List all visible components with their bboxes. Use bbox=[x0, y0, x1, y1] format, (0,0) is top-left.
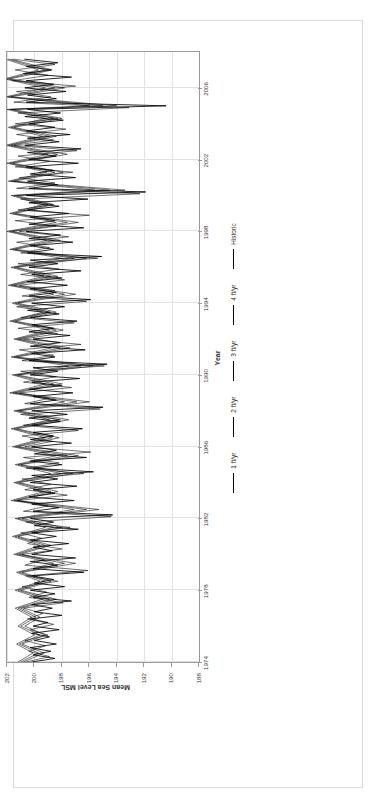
legend-swatch-icon bbox=[233, 249, 234, 269]
y-tick-label: 192 bbox=[140, 673, 147, 713]
plot-area bbox=[6, 51, 200, 663]
legend-item[interactable]: 2 ft/yr bbox=[230, 397, 237, 437]
legend-item[interactable]: 1 ft/yr bbox=[230, 453, 237, 493]
x-tick-label: 2006 bbox=[202, 69, 209, 109]
y-tick-mark bbox=[6, 663, 7, 667]
x-tick-mark bbox=[198, 447, 202, 448]
y-tick-label: 198 bbox=[57, 673, 64, 713]
y-tick-mark bbox=[88, 663, 89, 667]
x-tick-label: 1986 bbox=[202, 428, 209, 468]
series-line-historic bbox=[23, 59, 166, 662]
legend-label: 1 ft/yr bbox=[230, 453, 237, 469]
x-tick-mark bbox=[198, 375, 202, 376]
y-tick-mark bbox=[143, 663, 144, 667]
y-tick-label: 202 bbox=[3, 673, 10, 713]
x-tick-label: 1994 bbox=[202, 284, 209, 324]
y-tick-mark bbox=[116, 663, 117, 667]
x-tick-label: 1978 bbox=[202, 571, 209, 611]
x-tick-label: 2002 bbox=[202, 141, 209, 181]
legend-swatch-icon bbox=[233, 361, 234, 381]
x-tick-label: 1974 bbox=[202, 643, 209, 683]
horizontal-gridline bbox=[199, 52, 200, 662]
x-tick-mark bbox=[198, 303, 202, 304]
x-tick-mark bbox=[198, 518, 202, 519]
legend-label: 4 ft/yr bbox=[230, 285, 237, 301]
x-axis-title: Year bbox=[214, 53, 221, 663]
x-tick-mark bbox=[198, 590, 202, 591]
y-tick-label: 196 bbox=[85, 673, 92, 713]
chart-legend: 1 ft/yr2 ft/yr3 ft/yr4 ft/yrHistoric bbox=[230, 53, 237, 663]
y-tick-mark bbox=[33, 663, 34, 667]
legend-swatch-icon bbox=[233, 417, 234, 437]
legend-swatch-icon bbox=[233, 473, 234, 493]
x-tick-mark bbox=[198, 662, 202, 663]
x-tick-label: 1990 bbox=[202, 356, 209, 396]
x-tick-mark bbox=[198, 231, 202, 232]
document-page: Mean Sea Level MSL Year 1 ft/yr2 ft/yr3 … bbox=[0, 0, 377, 805]
legend-item[interactable]: 4 ft/yr bbox=[230, 285, 237, 325]
y-tick-label: 190 bbox=[167, 673, 174, 713]
y-tick-label: 188 bbox=[195, 673, 202, 713]
y-tick-mark bbox=[61, 663, 62, 667]
x-tick-label: 1998 bbox=[202, 212, 209, 252]
y-tick-label: 200 bbox=[30, 673, 37, 713]
sea-level-chart: Mean Sea Level MSL Year 1 ft/yr2 ft/yr3 … bbox=[0, 1, 270, 721]
x-tick-label: 1982 bbox=[202, 499, 209, 539]
legend-label: 3 ft/yr bbox=[230, 341, 237, 357]
legend-item[interactable]: Historic bbox=[230, 223, 237, 268]
x-tick-mark bbox=[198, 88, 202, 89]
legend-item[interactable]: 3 ft/yr bbox=[230, 341, 237, 381]
series-line-4-ft-yr bbox=[7, 59, 95, 662]
legend-label: Historic bbox=[230, 223, 237, 244]
y-tick-mark bbox=[171, 663, 172, 667]
legend-swatch-icon bbox=[233, 305, 234, 325]
series-layer bbox=[7, 52, 199, 662]
figure-rotated-container: Mean Sea Level MSL Year 1 ft/yr2 ft/yr3 … bbox=[0, 1, 270, 721]
y-tick-label: 194 bbox=[112, 673, 119, 713]
y-tick-mark bbox=[198, 663, 199, 667]
legend-label: 2 ft/yr bbox=[230, 397, 237, 413]
x-tick-mark bbox=[198, 160, 202, 161]
